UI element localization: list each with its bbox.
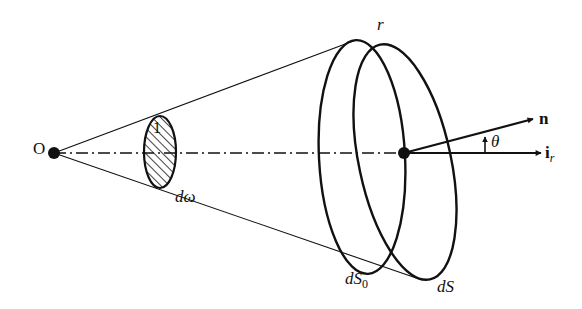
radial-unit-label-subscript: r [550, 151, 555, 165]
radius-label: r [377, 15, 384, 34]
ds0-ellipse [313, 38, 411, 276]
origin-label: O [33, 139, 45, 158]
origin-point [48, 147, 60, 159]
unit-radius-label: 1 [153, 119, 161, 136]
cone-lower-line [54, 153, 422, 280]
normal-label: n [539, 109, 549, 128]
solid-angle-diagram: O 1 dω r dS0 dS n ir θ [0, 0, 582, 309]
ds-label: dS [437, 277, 455, 296]
radial-unit-label: ir [545, 143, 555, 165]
normal-vector-arrow [404, 119, 533, 153]
cone-upper-line [54, 40, 356, 153]
solid-angle-label: dω [175, 187, 196, 206]
ds0-label-subscript: 0 [362, 277, 368, 291]
ds0-label-base: dS [345, 269, 363, 288]
ds0-label: dS0 [345, 269, 368, 291]
angle-label: θ [491, 132, 499, 151]
